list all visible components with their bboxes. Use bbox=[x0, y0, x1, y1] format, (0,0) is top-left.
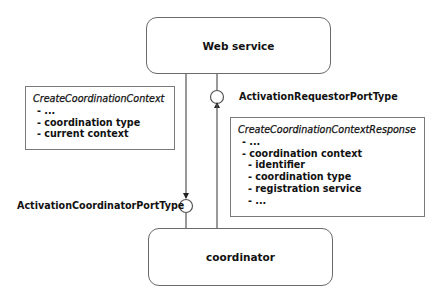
response-message-title: CreateCoordinationContextResponse bbox=[238, 124, 424, 136]
request-item: - ... bbox=[33, 105, 174, 117]
request-item: - coordination type bbox=[33, 117, 174, 129]
web-service-label: Web service bbox=[203, 40, 275, 52]
coordinator-port-label: ActivationCoordinatorPortType bbox=[17, 200, 184, 211]
request-item: - current context bbox=[33, 128, 174, 140]
request-message-title: CreateCoordinationContext bbox=[33, 93, 174, 105]
arrow-down-icon bbox=[183, 193, 189, 199]
requestor-port-icon bbox=[211, 91, 224, 104]
response-item: - registration service bbox=[238, 183, 424, 195]
request-message-note: CreateCoordinationContext- ...- coordina… bbox=[25, 86, 175, 150]
coordinator-node: coordinator bbox=[148, 228, 333, 286]
response-message-note: CreateCoordinationContextResponse- ...- … bbox=[230, 117, 425, 217]
response-item: - coordination context bbox=[238, 148, 424, 160]
requestor-port-label: ActivationRequestorPortType bbox=[239, 91, 398, 102]
coordinator-label: coordinator bbox=[206, 251, 275, 263]
response-item: - ... bbox=[238, 136, 424, 148]
response-item: - identifier bbox=[238, 159, 424, 171]
response-item: - coordination type bbox=[238, 171, 424, 183]
web-service-node: Web service bbox=[146, 17, 331, 74]
response-item: - ... bbox=[238, 195, 424, 207]
